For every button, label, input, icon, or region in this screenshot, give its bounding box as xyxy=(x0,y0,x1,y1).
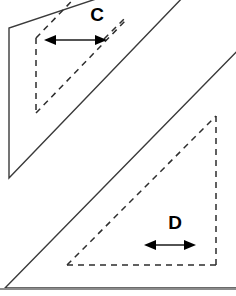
lower-hidden-hypotenuse xyxy=(67,116,216,265)
dimension-c-arrow-head-right xyxy=(95,35,107,45)
dimension-c-arrow-head-left xyxy=(44,35,56,45)
dimension-d-label: D xyxy=(168,212,182,233)
dimension-d: D xyxy=(144,212,196,250)
dimension-d-arrow-head-right xyxy=(184,240,196,250)
figure-root: C D xyxy=(0,0,236,296)
dimension-d-arrow-head-left xyxy=(144,240,156,250)
upper-hidden-bottom-diagonal xyxy=(36,21,125,113)
figure-canvas: C D xyxy=(0,0,236,296)
lower-prism-outline xyxy=(5,40,236,288)
upper-hidden-parallelogram xyxy=(36,0,127,113)
upper-prism-outline xyxy=(9,0,186,178)
dimension-c: C xyxy=(44,4,107,45)
upper-hidden-top-diagonal xyxy=(36,0,125,38)
lower-hidden-triangle xyxy=(67,116,216,265)
dimension-c-label: C xyxy=(90,4,104,25)
upper-hidden-right-diagonal xyxy=(104,16,127,39)
